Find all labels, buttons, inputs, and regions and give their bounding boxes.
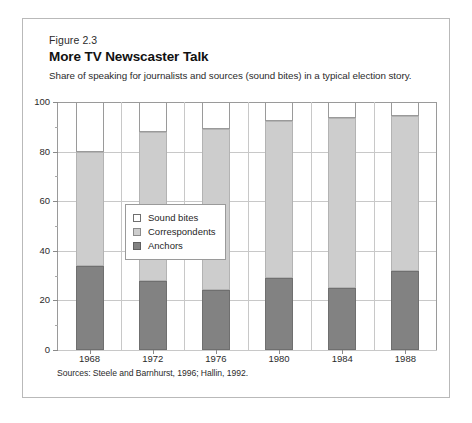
- y-axis-label: 20: [39, 296, 50, 306]
- x-axis-label: 1972: [129, 354, 177, 364]
- bar-segment-correspondents[interactable]: [328, 118, 356, 288]
- bar-segment-sound-bites[interactable]: [139, 102, 167, 132]
- x-axis-label: 1984: [318, 354, 366, 364]
- y-axis-label: 80: [39, 147, 50, 157]
- bar-segment-anchors[interactable]: [328, 288, 356, 350]
- source-note: Sources: Steele and Barnhurst, 1996; Hal…: [57, 367, 248, 379]
- bar-segment-anchors[interactable]: [202, 290, 230, 350]
- bar-group[interactable]: [328, 102, 356, 350]
- legend-swatch-icon: [133, 242, 141, 250]
- bar-segment-correspondents[interactable]: [76, 152, 104, 266]
- bar-segment-sound-bites[interactable]: [202, 102, 230, 129]
- y-axis-tick: [53, 201, 58, 202]
- bar-segment-anchors[interactable]: [265, 278, 293, 350]
- y-axis-tick: [53, 152, 58, 153]
- bar-segment-sound-bites[interactable]: [391, 102, 419, 116]
- x-axis-label: 1968: [66, 354, 114, 364]
- figure-frame: Figure 2.3 More TV Newscaster Talk Share…: [22, 18, 450, 398]
- legend-label: Correspondents: [148, 227, 216, 237]
- category-separator: [374, 102, 375, 350]
- y-axis-tick: [53, 350, 58, 351]
- bar-group[interactable]: [76, 102, 104, 350]
- chart-plot-wrapper: 020406080100196819721976198019841988 Sou…: [23, 19, 451, 399]
- y-axis-label: 0: [45, 345, 50, 355]
- category-separator: [248, 102, 249, 350]
- y-gridline: [58, 350, 437, 351]
- legend-item[interactable]: Anchors: [133, 239, 216, 252]
- bar-segment-correspondents[interactable]: [265, 121, 293, 278]
- y-axis-tick: [53, 102, 58, 103]
- bar-segment-sound-bites[interactable]: [328, 102, 356, 118]
- bar-group[interactable]: [391, 102, 419, 350]
- y-axis-minor-tick: [55, 127, 58, 128]
- category-separator: [311, 102, 312, 350]
- x-axis-label: 1988: [381, 354, 429, 364]
- y-axis-label: 60: [39, 196, 50, 206]
- category-separator: [121, 102, 122, 350]
- legend-label: Anchors: [148, 241, 183, 251]
- bar-segment-anchors[interactable]: [76, 266, 104, 350]
- x-axis-label: 1976: [192, 354, 240, 364]
- bar-group[interactable]: [265, 102, 293, 350]
- chart-legend: Sound bitesCorrespondentsAnchors: [125, 204, 226, 260]
- legend-label: Sound bites: [148, 213, 198, 223]
- chart-plot-area: 020406080100196819721976198019841988: [57, 102, 437, 351]
- y-axis-minor-tick: [55, 226, 58, 227]
- bar-segment-sound-bites[interactable]: [265, 102, 293, 121]
- bar-segment-anchors[interactable]: [391, 271, 419, 350]
- x-axis-label: 1980: [255, 354, 303, 364]
- legend-item[interactable]: Sound bites: [133, 211, 216, 224]
- bar-segment-anchors[interactable]: [139, 281, 167, 350]
- y-axis-minor-tick: [55, 276, 58, 277]
- legend-item[interactable]: Correspondents: [133, 225, 216, 238]
- y-axis-label: 40: [39, 246, 50, 256]
- y-axis-tick: [53, 300, 58, 301]
- bar-segment-correspondents[interactable]: [391, 116, 419, 271]
- y-axis-tick: [53, 251, 58, 252]
- y-axis-label: 100: [34, 97, 50, 107]
- legend-swatch-icon: [133, 228, 141, 236]
- y-axis-minor-tick: [55, 325, 58, 326]
- category-separator: [436, 102, 437, 350]
- legend-swatch-icon: [133, 214, 141, 222]
- bar-segment-sound-bites[interactable]: [76, 102, 104, 152]
- y-axis-minor-tick: [55, 176, 58, 177]
